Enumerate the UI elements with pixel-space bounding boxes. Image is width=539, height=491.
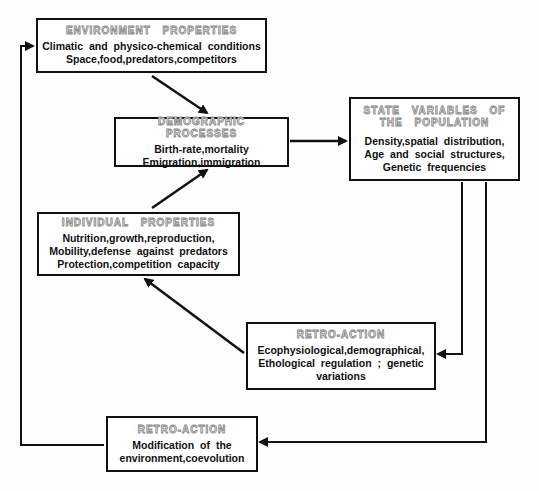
box-line: Genetic frequencies: [383, 161, 486, 174]
box-title: RETRO-ACTION: [297, 329, 386, 341]
box-line: environment,coevolution: [120, 452, 245, 465]
arrow-state-to-retro1: [438, 182, 462, 354]
retro-action-coevolution-box: RETRO-ACTION Modification of the environ…: [106, 416, 258, 472]
box-title: INDIVIDUAL PROPERTIES: [62, 217, 215, 229]
box-line: Nutrition,growth,reproduction,: [62, 232, 214, 245]
box-line: Climatic and physico-chemical conditions: [42, 40, 260, 53]
arrow-env-to-demo: [152, 76, 207, 113]
box-line: Emigration,immigration: [143, 156, 261, 169]
box-line: Mobility,defense against predators: [49, 245, 228, 258]
box-title: DEMOGRAPHIC PROCESSES: [120, 116, 283, 140]
box-line: variations: [316, 370, 366, 383]
arrow-indiv-to-demo: [152, 170, 207, 208]
box-line: Space,food,predators,competitors: [66, 53, 237, 66]
arrow-retro1-to-indiv: [145, 279, 244, 353]
box-title: RETRO-ACTION: [138, 424, 227, 436]
box-line: Density,spatial distribution,: [365, 135, 505, 148]
box-line: Birth-rate,mortality: [154, 143, 249, 156]
box-title: ENVIRONMENT PROPERTIES: [66, 25, 237, 37]
arrow-state-to-retro2: [260, 182, 486, 442]
demographic-processes-box: DEMOGRAPHIC PROCESSES Birth-rate,mortali…: [114, 117, 289, 167]
retro-action-regulation-box: RETRO-ACTION Ecophysiological,demographi…: [246, 322, 436, 390]
box-line: Ecophysiological,demographical,: [258, 344, 425, 357]
individual-properties-box: INDIVIDUAL PROPERTIES Nutrition,growth,r…: [37, 212, 240, 276]
box-line: Modification of the: [132, 439, 231, 452]
box-line: Protection,competition capacity: [57, 258, 219, 271]
environment-properties-box: ENVIRONMENT PROPERTIES Climatic and phys…: [36, 18, 267, 73]
box-title: THE POPULATION: [380, 117, 490, 129]
state-variables-box: STATE VARIABLES OF THE POPULATION Densit…: [349, 97, 520, 181]
box-title: STATE VARIABLES OF: [364, 105, 506, 117]
box-line: Ethological regulation ; genetic: [258, 357, 423, 370]
box-line: Age and social structures,: [364, 148, 504, 161]
